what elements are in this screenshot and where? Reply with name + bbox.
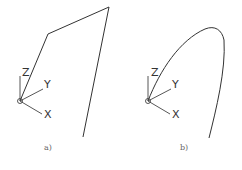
z-axis-label-a: Z [22, 66, 30, 79]
axis-triad-b [146, 76, 172, 114]
polyline-path [20, 7, 109, 137]
panel-b: Z Y X [146, 28, 225, 138]
x-axis-label-b: X [172, 108, 180, 121]
panel-a: Z Y X [18, 7, 110, 137]
diagram-svg: Z Y X Z Y X [0, 0, 242, 170]
panel-label-a: a) [44, 143, 52, 152]
panel-label-b: b) [180, 143, 188, 152]
y-axis-label-b: Y [171, 78, 179, 91]
axis-triad-a [18, 76, 44, 114]
x-axis-label-a: X [44, 108, 52, 121]
y-axis-label-a: Y [43, 78, 51, 91]
figure: Z Y X Z Y X a) b) [0, 0, 242, 170]
curve-path [148, 28, 224, 138]
z-axis-label-b: Z [151, 66, 159, 79]
